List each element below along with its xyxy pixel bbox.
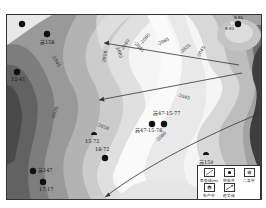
well-marker-w11	[40, 179, 46, 185]
well-label: 苏158	[40, 40, 55, 45]
well-marker-w10	[30, 168, 36, 174]
well-marker-w2	[44, 31, 50, 37]
trend-line-icon	[224, 183, 235, 192]
well-label: 9-83	[225, 27, 234, 31]
well-label: 苏47-15-76	[135, 128, 162, 133]
well-label: 9-84	[234, 16, 243, 20]
map-legend: 等值线(m) 空验井 二类井 低产井 趋势线	[197, 165, 261, 200]
well-marker-w3	[14, 69, 20, 75]
well-marker-w9	[102, 155, 108, 161]
legend-item-low-yield-well: 低产井	[199, 183, 219, 198]
legend-item-exploration-well: 空验井	[219, 168, 239, 183]
secondary-well-icon	[244, 168, 255, 177]
well-marker-w5	[229, 20, 234, 25]
well-label: 12-41	[11, 77, 25, 82]
legend-item-secondary-well: 二类井	[239, 168, 259, 183]
well-label: 17-17	[39, 187, 53, 192]
well-label: 18-72	[95, 147, 109, 152]
contour-line-icon	[204, 168, 215, 177]
legend-item-contour: 等值线(m)	[199, 168, 219, 183]
well-marker-w4	[235, 21, 241, 27]
well-label: 苏47-15-77	[153, 111, 180, 116]
well-marker-w1	[19, 21, 25, 27]
legend-item-trend-line: 趋势线	[219, 183, 239, 198]
low-yield-well-icon	[204, 183, 215, 192]
exploration-well-icon	[224, 168, 235, 177]
well-label: 15-72	[85, 139, 99, 144]
well-label: 苏147	[38, 168, 53, 173]
